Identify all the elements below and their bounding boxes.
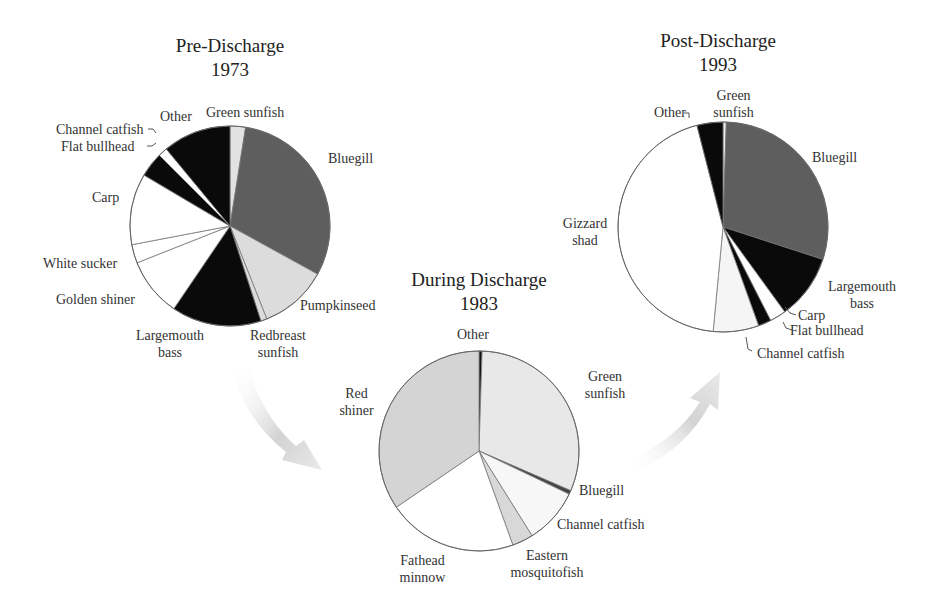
- pie-post-discharge: [618, 122, 828, 332]
- label-line: shad: [555, 232, 615, 249]
- label-during-fathead-minnow: Fathead minnow: [390, 552, 455, 586]
- label-post-bluegill: Bluegill: [812, 149, 857, 166]
- label-line: Largemouth: [130, 327, 210, 344]
- label-pre-largemouth-bass: Largemouth bass: [130, 327, 210, 361]
- label-post-gizzard-shad: Gizzard shad: [555, 215, 615, 249]
- label-pre-bluegill: Bluegill: [328, 150, 373, 167]
- label-line: sunfish: [243, 344, 313, 361]
- during-title-line2: 1983: [369, 292, 589, 316]
- label-post-channel-catfish: Channel catfish: [757, 345, 844, 362]
- label-pre-carp: Carp: [92, 189, 119, 206]
- post-title-line1: Post-Discharge: [608, 29, 828, 53]
- label-line: sunfish: [575, 385, 635, 402]
- label-pre-flat-bullhead: Flat bullhead: [61, 138, 135, 155]
- flow-arrow-pre-to-during: [232, 366, 322, 470]
- pre-title-line1: Pre-Discharge: [120, 34, 340, 58]
- label-line: Red: [334, 385, 379, 402]
- label-line: Green: [575, 368, 635, 385]
- pie-chart-figure: Pre-Discharge 1973 Green sunfish Other C…: [0, 0, 943, 614]
- label-pre-channel-catfish: Channel catfish: [56, 121, 143, 138]
- label-pre-golden-shiner: Golden shiner: [56, 291, 135, 308]
- label-during-other: Other: [457, 326, 489, 343]
- label-post-other: Other: [654, 104, 686, 121]
- label-line: shiner: [334, 402, 379, 419]
- flow-arrow-during-to-post: [626, 372, 720, 470]
- label-line: Green: [706, 87, 761, 104]
- label-line: Eastern: [502, 547, 592, 564]
- label-line: bass: [130, 344, 210, 361]
- label-during-green-sunfish: Green sunfish: [575, 368, 635, 402]
- label-line: Gizzard: [555, 215, 615, 232]
- pre-discharge-title: Pre-Discharge 1973: [120, 34, 340, 82]
- post-title-line2: 1993: [608, 53, 828, 77]
- during-title-line1: During Discharge: [369, 268, 589, 292]
- label-during-channel-catfish: Channel catfish: [557, 516, 644, 533]
- label-line: bass: [822, 295, 902, 312]
- label-pre-other: Other: [160, 108, 192, 125]
- label-during-red-shiner: Red shiner: [334, 385, 379, 419]
- post-discharge-title: Post-Discharge 1993: [608, 29, 828, 77]
- label-pre-green-sunfish: Green sunfish: [206, 104, 284, 121]
- label-during-bluegill: Bluegill: [579, 482, 624, 499]
- label-pre-white-sucker: White sucker: [43, 255, 117, 272]
- pie-during-discharge: [379, 351, 579, 551]
- label-line: Largemouth: [822, 278, 902, 295]
- label-pre-redbreast-sunfish: Redbreast sunfish: [243, 327, 313, 361]
- label-during-eastern-mosquitofish: Eastern mosquitofish: [502, 547, 592, 581]
- pie-pre-discharge: [130, 126, 330, 326]
- pre-title-line2: 1973: [120, 58, 340, 82]
- label-line: minnow: [390, 569, 455, 586]
- label-line: mosquitofish: [502, 564, 592, 581]
- label-post-largemouth-bass: Largemouth bass: [822, 278, 902, 312]
- label-pre-pumpkinseed: Pumpkinseed: [300, 297, 375, 314]
- label-post-flat-bullhead: Flat bullhead: [790, 322, 864, 339]
- label-line: sunfish: [706, 104, 761, 121]
- label-line: Fathead: [390, 552, 455, 569]
- label-post-green-sunfish: Green sunfish: [706, 87, 761, 121]
- label-line: Redbreast: [243, 327, 313, 344]
- during-discharge-title: During Discharge 1983: [369, 268, 589, 316]
